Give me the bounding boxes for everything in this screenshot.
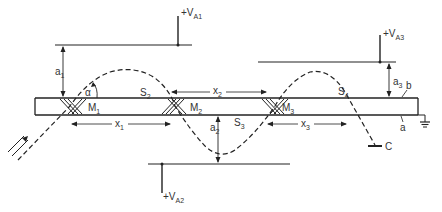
va3-label: +VA3 [383,28,404,41]
svg-text:M3: M3 [282,102,294,115]
distance-x1: x1 [71,118,171,131]
svg-text:a3: a3 [393,76,403,89]
svg-text:α: α [85,87,91,98]
va1-label: +VA1 [181,7,202,20]
segment-s4: S4 [338,86,349,99]
electrode-va1: +VA1 [55,7,202,47]
distance-x3: x3 [267,118,347,131]
svg-text:x3: x3 [301,118,310,131]
svg-text:x1: x1 [115,118,124,131]
mirror-m3: M3 [262,99,294,115]
gap-a1: a1 [55,46,66,97]
crystal-diagram: +VA1 a1 +VA3 a3 +VA2 a2 [0,0,442,212]
svg-text:C: C [385,141,392,152]
gap-a3: a3 [387,63,403,97]
va2-label: +VA2 [163,191,184,204]
svg-text:b: b [406,80,412,91]
gap-a2: a2 [210,116,221,163]
ground-icon [418,115,430,127]
electrode-va2: +VA2 [148,163,290,205]
svg-text:a: a [400,122,406,133]
svg-text:M2: M2 [190,102,202,115]
electrode-va3: +VA3 [258,28,404,64]
mirror-m1: M1 [60,99,100,115]
svg-text:M1: M1 [88,102,100,115]
distance-x2: x2 [171,85,267,98]
angle-alpha: α [85,82,97,98]
collector-c: C [368,141,392,152]
mirror-m2: M2 [162,99,202,115]
segment-s3: S3 [234,117,245,130]
svg-text:x2: x2 [213,85,222,98]
